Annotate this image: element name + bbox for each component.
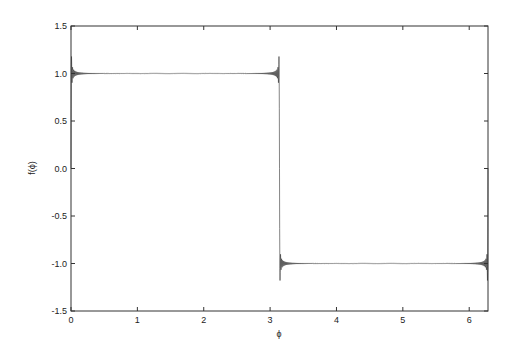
x-tick-label: 4 [334,315,339,325]
series-line [71,57,488,281]
x-tick-label: 1 [135,315,140,325]
x-tick-label: 2 [201,315,206,325]
y-tick-label: 1.0 [54,69,67,79]
x-tick-label: 3 [268,315,273,325]
x-tick-label: 6 [467,315,472,325]
x-tick-label: 0 [68,315,73,325]
y-tick-label: 0.0 [54,164,67,174]
x-axis-label: ϕ [276,329,281,339]
y-tick-label: -0.5 [51,211,67,221]
y-tick-label: -1.5 [51,306,67,316]
x-tick-label: 5 [400,315,405,325]
y-tick-label: 1.5 [54,21,67,31]
chart: 01234561.51.00.50.0-0.5-1.0-1.5 ϕ f(ϕ) [0,0,513,356]
axis-ticks: 01234561.51.00.50.0-0.5-1.0-1.5 [51,21,488,325]
y-tick-label: 0.5 [54,116,67,126]
data-series [71,57,488,281]
y-tick-label: -1.0 [51,259,67,269]
y-axis-label: f(ϕ) [27,161,37,175]
